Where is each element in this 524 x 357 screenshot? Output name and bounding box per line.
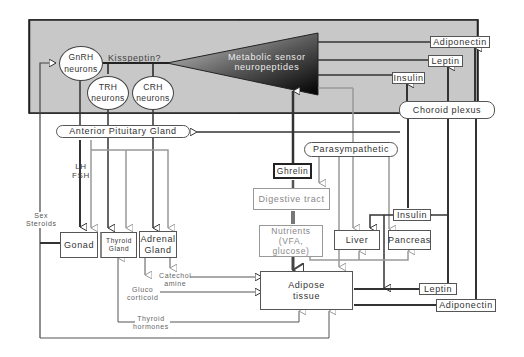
choroid-plexus-box: Choroid plexus [399, 101, 495, 119]
gonad-box: Gonad [60, 232, 98, 258]
adipose-tissue-box: Adiposetissue [260, 271, 353, 310]
endocrine-metabolic-diagram: GnRHneurons TRHneurons CRHneurons Kisspe… [0, 0, 524, 357]
crh-neurons: CRHneurons [132, 76, 174, 110]
thyroid-gland-box: ThyroidGland [100, 232, 137, 258]
glucocorticoid-label: Glucocorticoid [127, 286, 158, 302]
lh-fsh-label: LHFSH [72, 162, 90, 180]
metabolic-sensor-label: Metabolic sensorneuropeptides [228, 52, 306, 73]
brain-leptin-box: Leptin [428, 55, 463, 67]
digestive-tract-box: Digestive tract [253, 188, 330, 210]
liver-box: Liver [334, 230, 380, 250]
brain-insulin-box: Insulin [392, 72, 425, 84]
trh-neurons: TRHneurons [87, 76, 129, 110]
sex-steroids-label: SexSteroids [26, 212, 56, 228]
peripheral-leptin-box: Leptin [419, 283, 457, 295]
gnrh-neurons: GnRHneurons [59, 46, 103, 81]
catecholamine-label: Catecholamine [159, 272, 191, 288]
thyroid-hormones-label: Thyroidhormones [133, 315, 169, 331]
kisspeptin-label: Kisspeptin? [108, 53, 161, 63]
adrenal-gland-box: AdrenalGland [139, 231, 177, 258]
pancreas-box: Pancreas [388, 230, 431, 250]
anterior-pituitary-box: Anterior Pituitary Gland [56, 125, 190, 138]
parasympathetic-box: Parasympathetic [304, 142, 398, 157]
brain-adiponectin-box: Adiponectin [430, 36, 490, 48]
peripheral-adiponectin-box: Adiponectin [436, 299, 496, 312]
peripheral-insulin-box: Insulin [393, 209, 431, 221]
ghrelin-box: Ghrelin [273, 163, 312, 179]
nutrients-box: Nutrients(VFA, glucose) [259, 225, 323, 257]
